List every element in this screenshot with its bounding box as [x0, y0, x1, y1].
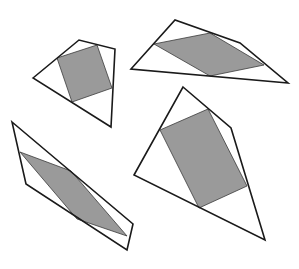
shape-bottom-right: [134, 87, 265, 240]
inscribed-parallelogram: [154, 33, 264, 76]
shape-top-left: [33, 40, 115, 127]
shape-top-right: [131, 20, 288, 83]
diagram-canvas: [0, 0, 299, 269]
inscribed-parallelogram: [20, 152, 127, 236]
inscribed-parallelogram: [57, 45, 112, 102]
inscribed-parallelogram: [160, 109, 247, 208]
shape-bottom-left: [12, 122, 133, 250]
